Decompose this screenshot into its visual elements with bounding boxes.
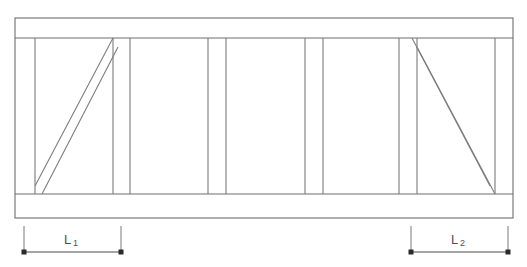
dimension-l2-tick-right xyxy=(506,250,511,255)
dimension-l1: L 1 xyxy=(22,226,124,255)
left-brace-edge-upper xyxy=(35,38,113,186)
left-brace-edge-lower xyxy=(42,47,118,194)
dimension-l1-tick-left xyxy=(22,250,27,255)
outer-frame-rect xyxy=(15,18,513,218)
vertical-posts-group xyxy=(35,38,495,194)
dimension-l2-label: L xyxy=(451,232,458,247)
left-diagonal-brace xyxy=(35,38,118,194)
right-diagonal-brace xyxy=(412,38,495,194)
right-brace-edge-lower xyxy=(417,47,495,194)
dimension-l2-tick-left xyxy=(409,250,414,255)
dimension-l2: L 2 xyxy=(409,226,511,255)
dimension-l1-subscript: 1 xyxy=(73,238,78,248)
diagram-canvas: L 1 L 2 xyxy=(0,0,527,267)
dimension-l2-subscript: 2 xyxy=(460,238,465,248)
dimension-l1-label: L xyxy=(64,232,71,247)
framed-panel-diagram: L 1 L 2 xyxy=(0,0,527,267)
dimension-l1-tick-right xyxy=(119,250,124,255)
